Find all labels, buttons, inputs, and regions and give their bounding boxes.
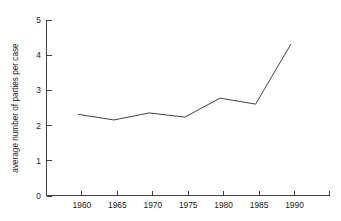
x-tick-label-1965: 1965 — [108, 200, 127, 210]
x-tick-label-1985: 1985 — [250, 200, 269, 210]
x-tick-label-1960: 1960 — [73, 200, 92, 210]
x-tick-label-1990: 1990 — [285, 200, 304, 210]
y-tick-label-1: 1 — [36, 156, 41, 166]
y-tick-marks — [47, 20, 52, 196]
line-chart-canvas: 0 1 2 3 4 5 1960 1965 1970 1975 1980 198… — [0, 0, 341, 221]
y-tick-label-5: 5 — [36, 15, 41, 25]
x-tick-label-1970: 1970 — [143, 200, 162, 210]
y-tick-label-group: 0 1 2 3 4 5 — [36, 15, 41, 201]
x-tick-label-1975: 1975 — [179, 200, 198, 210]
y-tick-label-2: 2 — [36, 121, 41, 131]
y-tick-label-0: 0 — [36, 191, 41, 201]
chart-figure: 0 1 2 3 4 5 1960 1965 1970 1975 1980 198… — [0, 0, 341, 221]
y-axis-title: average number of parties per case — [11, 43, 20, 173]
data-series-line — [78, 44, 291, 120]
x-tick-label-group: 1960 1965 1970 1975 1980 1985 1990 — [73, 200, 305, 210]
x-tick-label-1980: 1980 — [214, 200, 233, 210]
y-tick-label-4: 4 — [36, 50, 41, 60]
y-tick-label-3: 3 — [36, 85, 41, 95]
